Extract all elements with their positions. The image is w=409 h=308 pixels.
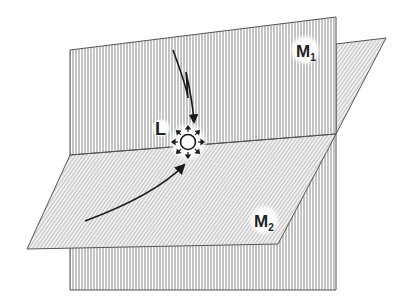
- label-l: L: [155, 119, 166, 139]
- radiating-sun-icon: [168, 122, 208, 162]
- diagram-canvas: L M1 M2: [0, 0, 409, 308]
- plane-m2-back: [336, 38, 386, 134]
